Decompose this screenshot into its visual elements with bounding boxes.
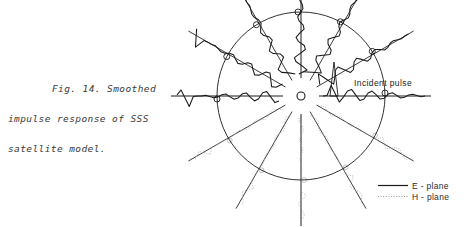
radial-spoke-330 (317, 105, 414, 161)
legend-label-e-plane: E - plane (412, 181, 449, 191)
center-hub-icon (297, 92, 305, 100)
incident-pulse-label: Incident pulse (354, 78, 412, 88)
impulse-trace-180 (177, 90, 279, 107)
figure-root: Fig. 14. Smoothed impulse response of SS… (0, 0, 465, 227)
radial-spoke-210 (188, 105, 285, 161)
impulse-trace-270 (298, 118, 306, 220)
impulse-trace-90 (291, 0, 308, 74)
radial-spoke-60 (310, 0, 366, 80)
legend-label-h-plane: H - plane (412, 192, 449, 202)
impulse-trace-240 (242, 115, 291, 205)
spokes-layer (171, 0, 431, 226)
radial-spoke-120 (236, 0, 292, 80)
impulse-trace-0 (323, 86, 425, 103)
polar-impulse-response-diagram: Incident pulse E - plane H - plane (0, 0, 465, 227)
impulse-trace-300 (311, 116, 362, 205)
legend: E - plane H - plane (378, 181, 449, 202)
incident-pulse-annotation: Incident pulse (330, 62, 412, 96)
